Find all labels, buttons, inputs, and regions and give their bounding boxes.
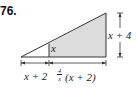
height-label: x + 4 — [108, 30, 131, 41]
left-base-label: x + 2 — [24, 71, 47, 82]
fraction-numerator: 4 — [57, 68, 62, 75]
inner-height-label: x — [51, 43, 56, 54]
right-base-label: (x + 2) — [65, 72, 96, 83]
shaded-region — [49, 13, 106, 57]
fraction-denominator: x — [57, 76, 62, 82]
